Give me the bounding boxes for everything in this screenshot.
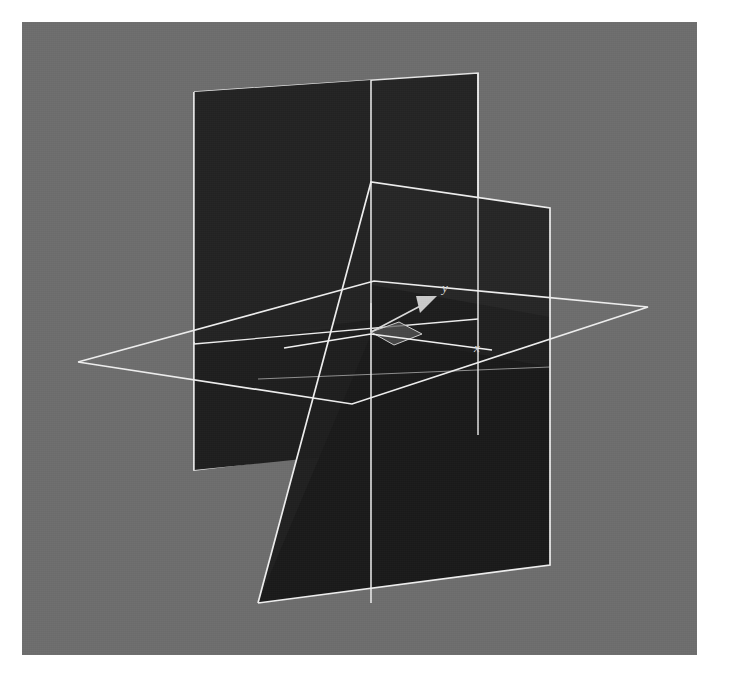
- figure-page: y x: [0, 0, 729, 678]
- y-axis-label: y: [440, 280, 448, 295]
- upper-left-quadrant-shade: [194, 80, 371, 342]
- x-axis-label: x: [473, 340, 480, 355]
- render-viewport: y x: [22, 22, 697, 655]
- three-orthogonal-planes-scene: y x: [22, 22, 697, 655]
